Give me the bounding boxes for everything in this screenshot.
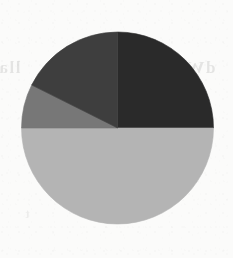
pie-slice-2[interactable] — [22, 128, 214, 224]
scanned-page: lla dW t — [0, 0, 233, 258]
pie-chart-svg — [0, 0, 233, 258]
pie-slice-1[interactable] — [118, 32, 214, 128]
pie-chart — [0, 0, 233, 258]
pie-slice-group — [22, 32, 214, 224]
